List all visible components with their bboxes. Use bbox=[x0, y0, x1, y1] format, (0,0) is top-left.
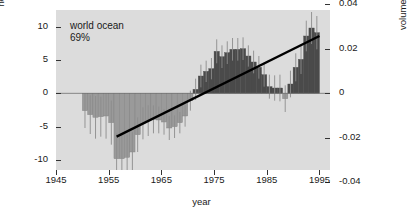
y-axis-left-tick-mark bbox=[56, 127, 61, 128]
x-axis-tick-mark bbox=[56, 170, 57, 175]
y-axis-left-tick-label: 5 bbox=[8, 53, 48, 64]
y-axis-left-tick-label: -10 bbox=[8, 153, 48, 164]
y-axis-right-tick-mark bbox=[325, 138, 330, 139]
x-axis-tick-mark bbox=[109, 170, 110, 175]
y-axis-left-tick-mark bbox=[56, 60, 61, 61]
y-axis-right-tick-mark bbox=[325, 49, 330, 50]
x-axis-title: year bbox=[0, 196, 403, 207]
y-axis-right-title: volume mean temperature anomaly, °C bbox=[397, 0, 408, 30]
x-axis-tick-mark bbox=[214, 170, 215, 175]
y-axis-right-tick-label: 0.02 bbox=[339, 42, 385, 53]
y-axis-right-tick-label: 0.04 bbox=[339, 0, 385, 8]
y-axis-right-tick-label: -0.02 bbox=[339, 131, 385, 142]
y-axis-right-tick-mark bbox=[325, 93, 330, 94]
x-axis-tick-mark bbox=[161, 170, 162, 175]
plot-area: world ocean 69% bbox=[56, 10, 330, 170]
x-axis-tick-label: 1945 bbox=[36, 174, 76, 185]
x-axis-tick-label: 1965 bbox=[141, 174, 181, 185]
y-axis-right-tick-mark bbox=[325, 4, 330, 5]
y-axis-left-tick-label: 0 bbox=[8, 86, 48, 97]
annotation-world-ocean: world ocean bbox=[70, 20, 124, 32]
x-axis-tick-label: 1995 bbox=[299, 174, 339, 185]
x-axis-tick-label: 1975 bbox=[194, 174, 234, 185]
x-axis-tick-label: 1985 bbox=[247, 174, 287, 185]
annotation-percent: 69% bbox=[70, 32, 90, 44]
y-axis-left-tick-mark bbox=[56, 160, 61, 161]
y-axis-left-tick-label: 10 bbox=[8, 20, 48, 31]
y-axis-left-title-text: heat content, ×1022 J bbox=[0, 0, 6, 6]
y-axis-left-title: heat content, ×1022 J bbox=[0, 0, 6, 32]
chart-canvas bbox=[56, 10, 330, 170]
x-axis-tick-label: 1955 bbox=[89, 174, 129, 185]
x-axis-tick-mark bbox=[319, 170, 320, 175]
y-axis-left-tick-mark bbox=[56, 93, 61, 94]
x-axis-tick-mark bbox=[267, 170, 268, 175]
y-axis-left-tick-label: -5 bbox=[8, 120, 48, 131]
y-axis-right-tick-label: 0 bbox=[339, 86, 385, 97]
y-axis-right-tick-label: -0.04 bbox=[339, 175, 385, 186]
y-axis-left-tick-mark bbox=[56, 27, 61, 28]
